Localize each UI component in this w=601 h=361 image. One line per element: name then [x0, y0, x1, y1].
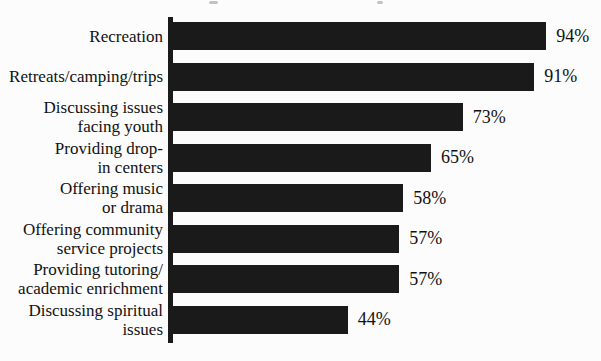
bar-row: Providing tutoring/ academic enrichment …: [0, 259, 601, 300]
bar: [173, 22, 546, 50]
value-label: 57%: [409, 269, 442, 290]
category-label: Discussing issues facing youth: [0, 98, 163, 136]
bar: [173, 144, 431, 172]
value-label: 94%: [556, 26, 589, 47]
bar-rows: Recreation 94% Retreats/camping/trips 91…: [0, 16, 601, 340]
bar-track: 65%: [173, 144, 570, 172]
bar-track: 94%: [173, 22, 570, 50]
horizontal-bar-chart: Recreation 94% Retreats/camping/trips 91…: [0, 0, 601, 361]
value-label: 65%: [441, 147, 474, 168]
bar: [173, 265, 399, 293]
bar-row: Retreats/camping/trips 91%: [0, 57, 601, 98]
value-label: 44%: [358, 309, 391, 330]
bar: [173, 306, 348, 334]
bar-track: 91%: [173, 63, 570, 91]
value-label: 58%: [413, 188, 446, 209]
bar-row: Recreation 94%: [0, 16, 601, 57]
bar-track: 57%: [173, 225, 570, 253]
category-label: Providing tutoring/ academic enrichment: [0, 260, 163, 298]
cropped-title-remnant: [209, 1, 218, 4]
category-label: Offering community service projects: [0, 220, 163, 258]
bar-track: 44%: [173, 306, 570, 334]
bar-row: Discussing spiritual issues 44%: [0, 300, 601, 341]
category-label: Offering music or drama: [0, 179, 163, 217]
category-label: Retreats/camping/trips: [0, 67, 163, 86]
category-label: Providing drop- in centers: [0, 139, 163, 177]
value-label: 73%: [473, 107, 506, 128]
bar-row: Offering music or drama 58%: [0, 178, 601, 219]
value-label: 57%: [409, 228, 442, 249]
bar-row: Offering community service projects 57%: [0, 219, 601, 260]
bar-row: Discussing issues facing youth 73%: [0, 97, 601, 138]
bar: [173, 225, 399, 253]
bar-row: Providing drop- in centers 65%: [0, 138, 601, 179]
bar-track: 73%: [173, 103, 570, 131]
value-label: 91%: [544, 66, 577, 87]
bar: [173, 63, 534, 91]
bar-track: 57%: [173, 265, 570, 293]
bar: [173, 184, 403, 212]
category-label: Discussing spiritual issues: [0, 301, 163, 339]
bar-track: 58%: [173, 184, 570, 212]
category-label: Recreation: [0, 27, 163, 46]
bar: [173, 103, 463, 131]
cropped-title-remnant: [377, 1, 383, 4]
